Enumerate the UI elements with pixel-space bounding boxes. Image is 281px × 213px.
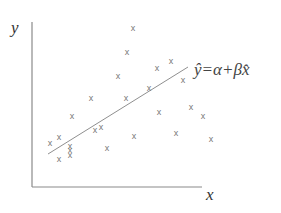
data-point-marker: x (70, 111, 75, 121)
data-point-marker: x (124, 93, 129, 103)
regression-equation: ŷ=α+βx̂ (194, 60, 249, 80)
data-points: xxxxxxxxxxxxxxxxxxxxxxxxx (48, 23, 214, 164)
data-point-marker: x (57, 154, 62, 164)
data-point-marker: x (48, 138, 53, 148)
data-point-marker: x (201, 111, 206, 121)
scatter-plot: xxxxxxxxxxxxxxxxxxxxxxxxx (0, 0, 281, 213)
data-point-marker: x (93, 125, 98, 135)
data-point-marker: x (57, 132, 62, 142)
data-point-marker: x (181, 75, 186, 85)
data-point-marker: x (169, 56, 174, 66)
data-point-marker: x (155, 63, 160, 73)
data-point-marker: x (116, 71, 121, 81)
data-point-marker: x (209, 134, 214, 144)
data-point-marker: x (189, 102, 194, 112)
x-axis-label: x (206, 185, 214, 205)
data-point-marker: x (132, 131, 137, 141)
data-point-marker: x (105, 143, 110, 153)
data-point-marker: x (99, 122, 104, 132)
y-axis-label: y (11, 18, 19, 38)
data-point-marker: x (68, 150, 73, 160)
data-point-marker: x (157, 107, 162, 117)
data-point-marker: x (147, 83, 152, 93)
data-point-marker: x (174, 128, 179, 138)
data-point-marker: x (89, 93, 94, 103)
data-point-marker: x (125, 47, 130, 57)
data-point-marker: x (131, 23, 136, 33)
